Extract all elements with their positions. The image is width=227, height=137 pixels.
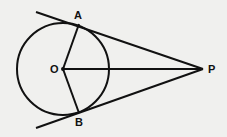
center-point-o bbox=[61, 67, 65, 71]
label-b: B bbox=[75, 116, 83, 128]
tangent-line-pa bbox=[36, 12, 203, 69]
tangent-line-pb bbox=[36, 69, 203, 128]
radius-ob bbox=[63, 69, 79, 113]
label-p: P bbox=[208, 63, 215, 75]
label-o: O bbox=[50, 63, 59, 75]
radius-oa bbox=[63, 24, 79, 69]
label-a: A bbox=[74, 9, 82, 21]
geometry-diagram: A O B P bbox=[0, 0, 227, 137]
diagram-canvas: A O B P bbox=[0, 0, 227, 137]
